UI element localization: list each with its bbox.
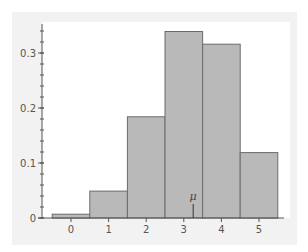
y-tick-label: 0.1 (20, 158, 36, 169)
x-tick-label: 4 (218, 224, 224, 235)
y-tick-label: 0.3 (20, 48, 36, 59)
bar-5 (240, 153, 278, 219)
y-tick-label: 0 (30, 213, 36, 224)
histogram-chart: 00.10.20.3 012345 μ (0, 0, 308, 252)
x-tick-label: 2 (143, 224, 149, 235)
x-tick-label: 3 (181, 224, 187, 235)
bar-3 (165, 32, 203, 219)
mean-label: μ (190, 190, 197, 203)
x-tick-label: 1 (105, 224, 111, 235)
bar-2 (127, 117, 165, 218)
x-tick-label: 0 (68, 224, 74, 235)
bar-4 (203, 44, 241, 218)
x-tick-label: 5 (256, 224, 262, 235)
y-tick-label: 0.2 (20, 103, 36, 114)
bar-1 (90, 191, 128, 218)
